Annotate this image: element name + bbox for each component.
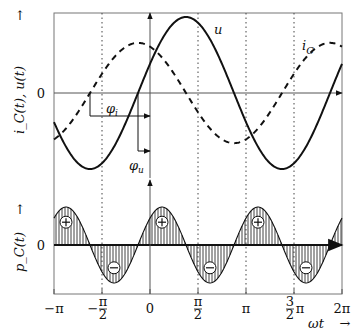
- plus-marker: [252, 216, 264, 228]
- x-tick-minus: −: [88, 301, 99, 316]
- x-tick-label: 32π: [286, 294, 305, 322]
- minus-marker: [108, 262, 120, 274]
- x-tick-label: π: [242, 301, 251, 316]
- lower-y-tick-0: 0: [37, 238, 45, 253]
- x-tick-den: 2: [99, 307, 107, 322]
- minus-marker: [300, 262, 312, 274]
- lower-y-label: p_C(t): [12, 232, 27, 272]
- x-tick-label: 0: [146, 301, 154, 316]
- series-label-i-c: iC: [302, 38, 314, 56]
- x-tick-den: 2: [286, 307, 294, 322]
- phi-u-sub: u: [138, 165, 144, 175]
- upper-y-arrow: ↑: [15, 8, 26, 23]
- x-tick-den: 2: [194, 307, 202, 322]
- phi-i-sub: i: [115, 108, 118, 118]
- x-tick-label: π2: [194, 294, 203, 322]
- x-tick-label: −π: [44, 301, 64, 316]
- phi-u-label: φu: [129, 158, 144, 175]
- x-tick-label: −π2: [88, 294, 108, 322]
- lower-plot: [54, 180, 342, 294]
- x-axis-arrow: →: [340, 316, 351, 331]
- phi-i-label: φi: [106, 101, 118, 118]
- upper-y-tick-0: 0: [37, 86, 45, 101]
- minus-marker: [204, 262, 216, 274]
- x-tick-label: 2π: [334, 301, 351, 316]
- upper-y-label: i_C(t), u(t): [12, 66, 27, 134]
- x-tick-pi: π: [296, 301, 305, 316]
- plus-marker: [156, 216, 168, 228]
- chart: uiCφiφu ↑ i_C(t), u(t) 0 ↑ p_C(t) 0 ωt →…: [0, 0, 361, 332]
- plus-marker: [60, 216, 72, 228]
- x-tick-labels: −π−π20π2π32π2π: [44, 294, 351, 322]
- axis-labels: ↑ i_C(t), u(t) 0 ↑ p_C(t) 0 ωt →: [12, 8, 351, 331]
- x-axis-label: ωt: [308, 316, 325, 331]
- series-label-i-c-sub: C: [306, 45, 314, 56]
- series-label-u: u: [214, 22, 222, 37]
- lower-y-arrow: ↑: [15, 202, 26, 217]
